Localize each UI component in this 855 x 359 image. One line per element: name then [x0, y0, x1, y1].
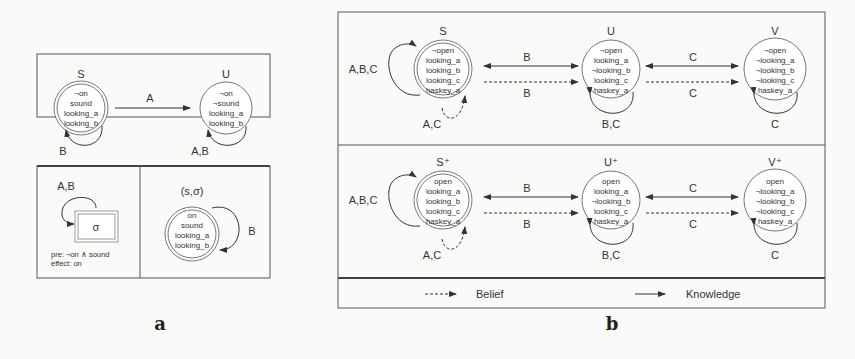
- prop: sound: [70, 99, 92, 108]
- action-sigma: A,B σ pre: ¬on ∧ sound effect: on: [51, 180, 118, 268]
- edge-label: A,C: [423, 249, 441, 261]
- edge-label: B: [523, 218, 530, 230]
- edge-label: C: [689, 87, 697, 99]
- prop: looking_a: [426, 187, 461, 196]
- prop: looking_b: [426, 197, 461, 206]
- prop: ¬looking_b: [592, 197, 631, 206]
- subfigure-label-b: b: [606, 313, 619, 334]
- prop: ¬looking_b: [592, 66, 631, 75]
- action-name: σ: [93, 221, 100, 233]
- prop: open: [602, 177, 620, 186]
- state-name: U: [607, 25, 615, 37]
- prop: haskey_a: [594, 217, 629, 226]
- edge-label: B,C: [602, 118, 620, 130]
- edge-label: C: [689, 182, 697, 194]
- edge-label: A,C: [423, 118, 441, 130]
- prop: open: [766, 177, 784, 186]
- prop: ¬open: [432, 46, 454, 55]
- edge-label: C: [689, 51, 697, 63]
- prop: ¬looking_c: [756, 207, 794, 216]
- edge-label: B: [523, 51, 530, 63]
- prop: ¬looking_b: [756, 66, 795, 75]
- prop: looking_b: [209, 119, 244, 128]
- row-2: S⁺ open looking_a looking_b looking_c ha…: [349, 156, 806, 261]
- state-name: S⁺: [436, 156, 449, 168]
- prop: haskey_a: [758, 86, 793, 95]
- row-1: S ¬open looking_a looking_b looking_c ha…: [349, 25, 806, 130]
- prop: ¬on: [74, 89, 88, 98]
- prop: ¬looking_c: [756, 76, 794, 85]
- prop: open: [434, 177, 452, 186]
- state-name: U⁺: [604, 156, 618, 168]
- prop: looking_c: [594, 207, 628, 216]
- prop: looking_b: [426, 66, 461, 75]
- edge-label: A,B: [191, 145, 209, 157]
- state-name: S: [439, 25, 446, 37]
- prop: looking_a: [175, 231, 210, 240]
- prop: ¬looking_a: [756, 187, 795, 196]
- precondition: pre: ¬on ∧ sound: [51, 250, 109, 259]
- edge-label: C: [771, 249, 779, 261]
- prop: ¬on: [219, 89, 233, 98]
- prop: looking_a: [209, 109, 244, 118]
- state-s: S ¬on sound looking_a looking_b B: [54, 68, 108, 157]
- state-name: (s,σ): [181, 185, 204, 197]
- edge-label: B: [59, 145, 66, 157]
- panel-b: S ¬open looking_a looking_b looking_c ha…: [338, 12, 825, 334]
- figure: S ¬on sound looking_a looking_b B A U ¬o…: [0, 0, 855, 359]
- prop: looking_c: [426, 207, 460, 216]
- state-name: V⁺: [768, 156, 781, 168]
- prop: ¬open: [764, 46, 786, 55]
- subfigure-label-a: a: [154, 313, 166, 334]
- prop: haskey_a: [594, 86, 629, 95]
- prop: looking_a: [64, 109, 99, 118]
- legend-knowledge-label: Knowledge: [686, 288, 740, 300]
- prop: haskey_a: [426, 217, 461, 226]
- prop: ¬sound: [213, 99, 239, 108]
- belief-loop-arrow: [442, 96, 465, 118]
- edge-label: B: [523, 182, 530, 194]
- state-u: U ¬on ¬sound looking_a looking_b A,B: [191, 68, 252, 157]
- prop: ¬looking_a: [756, 56, 795, 65]
- edge-label: C: [771, 118, 779, 130]
- prop: ¬looking_b: [756, 197, 795, 206]
- state-name: V: [771, 25, 779, 37]
- edge-label: B,C: [602, 249, 620, 261]
- prop: looking_b: [64, 119, 99, 128]
- prop: sound: [181, 221, 203, 230]
- state-name: U: [222, 68, 230, 80]
- prop: looking_c: [426, 76, 460, 85]
- state-name: S: [77, 68, 84, 80]
- state-product: (s,σ) on sound looking_a looking_b B: [165, 185, 256, 261]
- legend-belief-label: Belief: [476, 288, 504, 300]
- prop: haskey_a: [758, 217, 793, 226]
- edge-label: A,B,C: [349, 194, 378, 206]
- prop: looking_c: [594, 76, 628, 85]
- edge-label: C: [689, 218, 697, 230]
- effect: effect: on: [51, 259, 82, 268]
- panel-a: S ¬on sound looking_a looking_b B A U ¬o…: [37, 54, 270, 334]
- edge-label: A,B: [57, 180, 75, 192]
- prop: looking_a: [426, 56, 461, 65]
- belief-loop-arrow: [442, 227, 465, 249]
- edge-label: B: [248, 225, 255, 237]
- legend: Belief Knowledge: [425, 288, 740, 300]
- prop: on: [188, 211, 197, 220]
- edge-label: A: [146, 92, 154, 104]
- prop: looking_a: [594, 187, 629, 196]
- prop: ¬open: [600, 46, 622, 55]
- prop: looking_b: [175, 241, 210, 250]
- prop: haskey_a: [426, 86, 461, 95]
- edge-label: A,B,C: [349, 63, 378, 75]
- edge-label: B: [523, 87, 530, 99]
- prop: looking_a: [594, 56, 629, 65]
